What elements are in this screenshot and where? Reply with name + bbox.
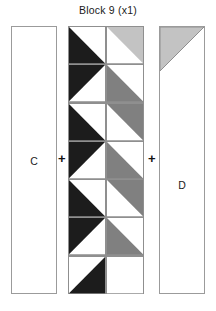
hst-r7c2[interactable] xyxy=(106,256,144,294)
unit-c-rectangle[interactable]: C xyxy=(11,26,57,294)
hst-r1c1[interactable] xyxy=(68,26,106,64)
unit-center-pieced-column[interactable] xyxy=(68,26,144,294)
hst-r4c2[interactable] xyxy=(106,141,144,179)
unit-d-rectangle[interactable]: D xyxy=(159,26,205,294)
hst-r2c2[interactable] xyxy=(106,64,144,102)
unit-d-label: D xyxy=(160,179,204,191)
hst-r6c2[interactable] xyxy=(106,217,144,255)
hst-r3c2[interactable] xyxy=(106,103,144,141)
hst-r4c1[interactable] xyxy=(68,141,106,179)
hst-r5c1[interactable] xyxy=(68,179,106,217)
unit-d-top-triangle xyxy=(160,27,204,71)
plus-operator-1: + xyxy=(58,152,66,165)
hst-r6c1[interactable] xyxy=(68,217,106,255)
hst-r3c1[interactable] xyxy=(68,103,106,141)
hst-r1c2[interactable] xyxy=(106,26,144,64)
hst-r2c1[interactable] xyxy=(68,64,106,102)
block-assembly-diagram: C + + D xyxy=(0,24,216,299)
hst-r5c2[interactable] xyxy=(106,179,144,217)
page-title: Block 9 (x1) xyxy=(0,4,216,16)
hst-r7c1[interactable] xyxy=(68,256,106,294)
unit-c-label: C xyxy=(12,155,56,167)
plus-operator-2: + xyxy=(148,152,156,165)
